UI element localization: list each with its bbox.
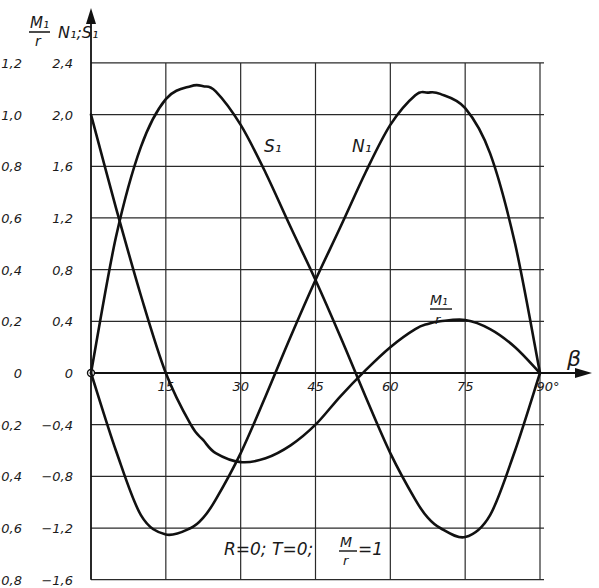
grid — [91, 63, 544, 580]
y-tick-label-m: −0,8 — [0, 573, 22, 588]
y-tick-label-ns: 1,2 — [52, 211, 73, 226]
y-tick-label-m: 1,2 — [1, 56, 22, 71]
y-tick-label-ns: −1,6 — [41, 573, 73, 588]
y-axis-arrow-icon — [86, 8, 96, 24]
x-tick-label: 30 — [232, 379, 249, 394]
x-tick-label: 45 — [307, 379, 324, 394]
y-tick-label-m: 0,8 — [1, 159, 22, 174]
annotation-fraction-denominator: r — [343, 553, 350, 568]
m1r-curve-label-denominator: r — [435, 312, 442, 327]
y-tick-label-ns: −0,8 — [41, 469, 73, 484]
beta-axis-label: β — [566, 346, 581, 371]
y-tick-label-ns: −0,4 — [41, 418, 73, 433]
y-tick-label-m: 1,0 — [1, 108, 22, 123]
x-tick-label: 75 — [457, 379, 474, 394]
y-tick-label-m: 0 — [14, 366, 22, 381]
x-tick-label: 90° — [536, 379, 559, 394]
y-tick-label-ns: 2,4 — [52, 56, 73, 71]
m-axis-label-denominator: r — [35, 33, 42, 49]
y-tick-label-m: 0,6 — [1, 211, 22, 226]
y-tick-label-ns: 0 — [65, 366, 73, 381]
annotation-fraction-numerator: M — [340, 534, 352, 550]
y-tick-label-m: −0,4 — [0, 469, 22, 484]
axes — [86, 8, 592, 580]
n1-curve-label: N₁ — [352, 136, 372, 156]
x-tick-label: 60 — [382, 379, 399, 394]
y-tick-label-ns: −1,2 — [41, 521, 73, 536]
y-tick-label-m: −0,6 — [0, 521, 22, 536]
annotation-left: R=0; T=0; — [224, 539, 313, 559]
annotation-right: =1 — [358, 539, 383, 559]
y-tick-label-ns: 0,8 — [52, 263, 73, 278]
y-tick-label-ns: 1,6 — [52, 159, 73, 174]
y-tick-label-ns: 2,0 — [52, 108, 73, 123]
parameter-annotation: R=0; T=0; M r =1 — [224, 534, 383, 568]
y-tick-label-ns: 0,4 — [52, 314, 73, 329]
ns-axis-label: N₁;S₁ — [58, 23, 98, 42]
y-tick-label-m: −0,2 — [0, 418, 22, 433]
chart: 2,41,22,01,01,60,81,20,60,80,40,40,200−0… — [0, 0, 599, 588]
m-axis-label-numerator: M₁ — [30, 14, 49, 32]
m1r-curve-label-numerator: M₁ — [430, 292, 448, 308]
y-tick-label-m: 0,2 — [1, 314, 22, 329]
y-tick-label-m: 0,4 — [1, 263, 22, 278]
s1-curve-label: S₁ — [264, 136, 282, 156]
